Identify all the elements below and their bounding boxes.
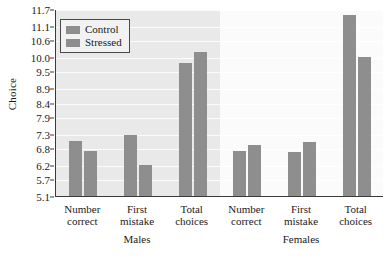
x-axis-category-label-line: correct xyxy=(228,215,264,227)
x-axis-category-label: Numbercorrect xyxy=(228,203,264,227)
y-axis-tick-label: 9.5 xyxy=(10,67,50,78)
gridline xyxy=(56,166,383,167)
bar-males-control xyxy=(69,141,82,196)
bar-males-stressed xyxy=(84,151,97,196)
x-axis-category-label-line: Number xyxy=(228,203,264,215)
x-axis-category-label: Totalchoices xyxy=(339,203,372,227)
y-axis-tick-labels: 11.711.110.610.09.58.98.47.97.36.86.25.7… xyxy=(8,0,50,258)
bar-males-control xyxy=(124,135,137,196)
x-axis-category-label-line: Number xyxy=(64,203,100,215)
x-axis-group-label-males: Males xyxy=(124,233,151,245)
y-axis-tick-mark xyxy=(50,134,54,135)
y-axis-tick-mark xyxy=(50,165,54,166)
legend-label-stressed: Stressed xyxy=(85,36,122,49)
y-axis-tick-label: 11.7 xyxy=(10,5,50,16)
x-axis-category-label-line: correct xyxy=(64,215,100,227)
y-axis-tick-label: 7.9 xyxy=(10,112,50,123)
bar-females-stressed xyxy=(303,142,316,196)
y-axis-tick-label: 5.1 xyxy=(10,192,50,203)
bar-males-stressed xyxy=(194,52,207,197)
bar-females-stressed xyxy=(248,145,261,196)
y-axis-tick-label: 6.8 xyxy=(10,143,50,154)
bar-males-control xyxy=(179,63,192,196)
legend-item-stressed: Stressed xyxy=(66,36,122,49)
bar-males-stressed xyxy=(139,165,152,196)
y-axis-tick-label: 7.3 xyxy=(10,129,50,140)
y-axis-tick-mark xyxy=(50,89,54,90)
gridline xyxy=(56,149,383,150)
x-axis-category-label-line: Total xyxy=(339,203,372,215)
x-axis-category-label: Firstmistake xyxy=(284,203,318,227)
x-axis-category-label-line: choices xyxy=(339,215,372,227)
x-axis-category-label-line: choices xyxy=(175,215,208,227)
y-axis-tick-label: 10.0 xyxy=(10,53,50,64)
x-axis-category-label-line: First xyxy=(284,203,318,215)
y-axis-tick-label: 11.1 xyxy=(10,22,50,33)
bar-chart: Choice 11.711.110.610.09.58.98.47.97.36.… xyxy=(0,0,387,258)
y-axis-tick-label: 8.4 xyxy=(10,98,50,109)
legend: Control Stressed xyxy=(60,19,130,53)
x-axis-category-label: Totalchoices xyxy=(175,203,208,227)
legend-swatch-icon xyxy=(66,26,80,34)
y-axis-tick-mark xyxy=(50,197,54,198)
x-axis-category-label-line: First xyxy=(120,203,154,215)
y-axis-tick-mark xyxy=(50,10,54,11)
x-axis-category-label-line: mistake xyxy=(284,215,318,227)
y-axis-tick-mark xyxy=(50,58,54,59)
y-axis-tick-mark xyxy=(50,180,54,181)
bar-females-control xyxy=(343,15,356,196)
bar-females-control xyxy=(233,151,246,196)
gridline xyxy=(56,118,383,119)
y-axis-tick-mark xyxy=(50,103,54,104)
gridline xyxy=(56,135,383,136)
gridline xyxy=(56,180,383,181)
legend-label-control: Control xyxy=(85,23,119,36)
y-axis-tick-label: 5.7 xyxy=(10,175,50,186)
gridline xyxy=(56,58,383,59)
legend-item-control: Control xyxy=(66,23,122,36)
y-axis-tick-mark xyxy=(50,27,54,28)
x-axis-category-label-line: Total xyxy=(175,203,208,215)
bar-females-control xyxy=(288,152,301,196)
y-axis-tick-label: 8.9 xyxy=(10,84,50,95)
x-axis-category-label: Numbercorrect xyxy=(64,203,100,227)
legend-swatch-icon xyxy=(66,39,80,47)
x-axis-group-label-females: Females xyxy=(283,233,320,245)
bar-females-stressed xyxy=(358,57,371,196)
y-axis-tick-label: 6.2 xyxy=(10,160,50,171)
y-axis-tick-mark xyxy=(50,41,54,42)
gridline xyxy=(56,104,383,105)
x-axis-category-label-line: mistake xyxy=(120,215,154,227)
gridline xyxy=(56,10,383,11)
gridline xyxy=(56,72,383,73)
y-axis-tick-mark xyxy=(50,148,54,149)
y-axis-tick-mark xyxy=(50,117,54,118)
y-axis-tick-mark xyxy=(50,72,54,73)
y-axis-tick-label: 10.6 xyxy=(10,36,50,47)
x-axis-category-label: Firstmistake xyxy=(120,203,154,227)
gridline xyxy=(56,89,383,90)
